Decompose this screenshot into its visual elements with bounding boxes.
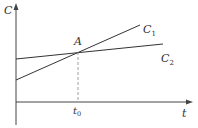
line-c2: [16, 44, 163, 59]
c1-label: C1: [143, 23, 156, 38]
concentration-time-diagram: C t A C1 C2 t0: [0, 0, 198, 128]
y-axis-label: C: [4, 4, 13, 17]
y-axis-arrow-icon: [14, 3, 19, 10]
t0-label: t0: [73, 105, 81, 118]
intersection-label: A: [73, 35, 82, 48]
x-axis-label: t: [182, 107, 187, 120]
x-axis-arrow-icon: [186, 100, 193, 105]
c2-label: C2: [161, 52, 174, 67]
